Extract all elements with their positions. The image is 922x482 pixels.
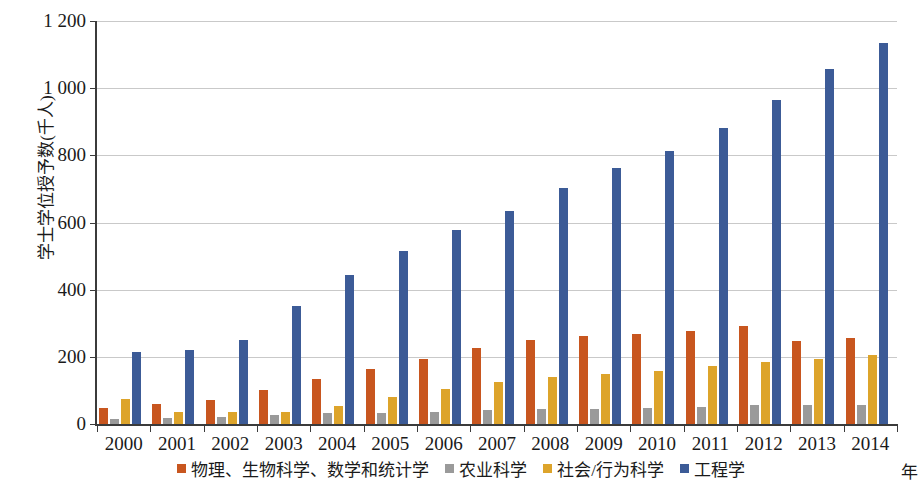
x-tick-label-2009: 2009 <box>574 433 634 455</box>
x-tick-mark <box>97 424 98 432</box>
x-tick-label-2001: 2001 <box>147 433 207 455</box>
legend-swatch-icon <box>445 464 454 473</box>
y-tick-label: 800 <box>58 144 87 166</box>
x-tick-mark <box>737 424 738 432</box>
bar[interactable] <box>494 382 503 424</box>
y-tick-label: 200 <box>58 346 87 368</box>
bar[interactable] <box>632 334 641 424</box>
bar[interactable] <box>739 326 748 424</box>
y-tick-mark-0 <box>90 424 97 425</box>
x-axis-title: 年 <box>901 458 918 482</box>
bar[interactable] <box>345 275 354 424</box>
bar-group-2008 <box>524 21 577 424</box>
bar[interactable] <box>472 348 481 424</box>
bar[interactable] <box>110 419 119 424</box>
y-tick-label: 0 <box>77 413 87 435</box>
bar[interactable] <box>601 374 610 424</box>
bar[interactable] <box>825 69 834 424</box>
legend-label: 物理、生物科学、数学和统计学 <box>191 456 429 481</box>
bar[interactable] <box>559 188 568 424</box>
bar[interactable] <box>590 409 599 424</box>
bar[interactable] <box>719 128 728 424</box>
bar[interactable] <box>750 405 759 424</box>
x-tick-label-2012: 2012 <box>734 433 794 455</box>
bar[interactable] <box>228 412 237 424</box>
bar[interactable] <box>846 338 855 424</box>
bar[interactable] <box>430 412 439 424</box>
bar-group-2014 <box>844 21 897 424</box>
legend-label: 社会/行为科学 <box>557 456 664 481</box>
bar[interactable] <box>579 336 588 424</box>
bar[interactable] <box>281 412 290 424</box>
y-tick-mark-1000 <box>90 88 97 89</box>
bar[interactable] <box>857 405 866 424</box>
y-tick-label: 600 <box>58 212 87 234</box>
x-tick-label-2007: 2007 <box>467 433 527 455</box>
x-tick-label-2003: 2003 <box>254 433 314 455</box>
bar[interactable] <box>537 409 546 424</box>
bar[interactable] <box>708 366 717 424</box>
bar[interactable] <box>697 407 706 424</box>
plot-area: 02004006008001 0001 200 2000200120022003… <box>95 21 897 426</box>
bar[interactable] <box>366 369 375 424</box>
x-tick-label-2013: 2013 <box>787 433 847 455</box>
bar[interactable] <box>526 340 535 424</box>
bar[interactable] <box>132 352 141 424</box>
bar[interactable] <box>761 362 770 424</box>
bar-group-2006 <box>417 21 470 424</box>
bar[interactable] <box>814 359 823 424</box>
bar[interactable] <box>377 413 386 424</box>
bar[interactable] <box>803 405 812 424</box>
bar[interactable] <box>334 406 343 424</box>
bar[interactable] <box>441 389 450 424</box>
bar[interactable] <box>419 359 428 424</box>
bar[interactable] <box>665 151 674 424</box>
bar[interactable] <box>217 417 226 424</box>
bar-group-2002 <box>204 21 257 424</box>
bar[interactable] <box>312 379 321 424</box>
bar[interactable] <box>121 399 130 424</box>
bar[interactable] <box>163 418 172 424</box>
bar[interactable] <box>270 415 279 424</box>
bar[interactable] <box>99 408 108 424</box>
bar[interactable] <box>388 397 397 424</box>
bar-group-2012 <box>737 21 790 424</box>
bar[interactable] <box>548 377 557 424</box>
chart-page: 学士学位授予数(千人) 02004006008001 0001 200 2000… <box>0 0 922 482</box>
bar[interactable] <box>239 340 248 424</box>
bar[interactable] <box>868 355 877 424</box>
bar[interactable] <box>174 412 183 424</box>
x-tick-mark <box>630 424 631 432</box>
bar[interactable] <box>323 413 332 424</box>
bar-group-2003 <box>257 21 310 424</box>
bar[interactable] <box>206 400 215 424</box>
bar[interactable] <box>185 350 194 424</box>
bar[interactable] <box>612 168 621 424</box>
bar[interactable] <box>879 43 888 424</box>
legend-item[interactable]: 工程学 <box>680 456 745 481</box>
bar-group-2004 <box>310 21 363 424</box>
bar[interactable] <box>259 390 268 424</box>
bar[interactable] <box>152 404 161 424</box>
y-tick-mark-1200 <box>90 21 97 22</box>
bar[interactable] <box>483 410 492 424</box>
bar[interactable] <box>654 371 663 424</box>
legend-item[interactable]: 社会/行为科学 <box>543 456 664 481</box>
legend-item[interactable]: 农业科学 <box>445 456 527 481</box>
legend-item[interactable]: 物理、生物科学、数学和统计学 <box>177 456 429 481</box>
x-tick-mark <box>310 424 311 432</box>
x-tick-mark <box>150 424 151 432</box>
bar[interactable] <box>792 341 801 424</box>
bar[interactable] <box>292 306 301 424</box>
bar[interactable] <box>686 331 695 424</box>
bar[interactable] <box>643 408 652 424</box>
x-tick-mark <box>417 424 418 432</box>
bar[interactable] <box>772 100 781 424</box>
bar-series-container <box>97 21 897 424</box>
bar[interactable] <box>452 230 461 424</box>
bar[interactable] <box>505 211 514 424</box>
legend-label: 工程学 <box>694 456 745 481</box>
bar[interactable] <box>399 251 408 424</box>
y-tick-label: 400 <box>58 279 87 301</box>
x-tick-mark <box>844 424 845 432</box>
